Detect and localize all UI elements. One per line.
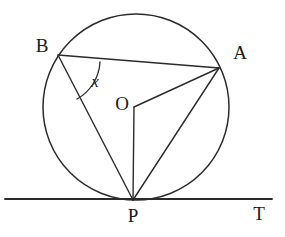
label-angle-x: x <box>90 72 99 91</box>
label-point-b: B <box>36 35 49 56</box>
segment-op <box>133 107 134 200</box>
segment-ba <box>58 55 219 68</box>
geometry-figure: B A O P T x <box>0 0 285 237</box>
circle-outline <box>43 14 229 200</box>
label-point-p: P <box>128 205 139 226</box>
label-point-a: A <box>233 42 247 63</box>
label-point-t: T <box>253 203 265 224</box>
geometry-diagram-canvas: B A O P T x <box>0 0 285 237</box>
label-point-o: O <box>115 93 129 114</box>
